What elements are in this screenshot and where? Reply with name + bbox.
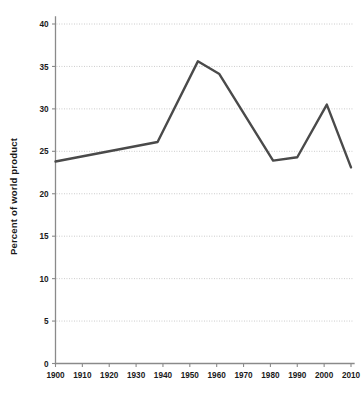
x-axis-ticks: 1900191019201930194019501960197019801990… <box>46 364 360 380</box>
y-tick-label-35: 35 <box>39 63 49 72</box>
x-tick-label-1920: 1920 <box>100 371 119 380</box>
y-tick-label-25: 25 <box>39 147 49 156</box>
x-tick-label-1990: 1990 <box>288 371 307 380</box>
x-tick-label-1980: 1980 <box>261 371 280 380</box>
y-tick-label-40: 40 <box>39 20 49 29</box>
x-tick-label-1970: 1970 <box>234 371 253 380</box>
y-tick-label-10: 10 <box>39 275 49 284</box>
x-tick-label-1960: 1960 <box>208 371 227 380</box>
y-tick-label-15: 15 <box>39 232 49 241</box>
x-tick-label-1910: 1910 <box>73 371 92 380</box>
y-axis-ticks: 0510152025303540 <box>39 20 55 369</box>
x-tick-label-1950: 1950 <box>181 371 200 380</box>
x-tick-label-2010: 2010 <box>342 371 361 380</box>
y-tick-label-30: 30 <box>39 105 49 114</box>
axis-lines <box>56 17 355 364</box>
x-tick-label-1900: 1900 <box>46 371 65 380</box>
line-chart-plot: 0510152025303540 19001910192019301940195… <box>0 0 361 393</box>
chart-figure: Percent of world product 051015202530354… <box>0 0 361 393</box>
y-tick-label-0: 0 <box>44 360 49 369</box>
y-tick-label-20: 20 <box>39 190 49 199</box>
x-tick-label-1930: 1930 <box>127 371 146 380</box>
x-tick-label-1940: 1940 <box>154 371 173 380</box>
y-tick-label-5: 5 <box>44 317 49 326</box>
x-tick-label-2000: 2000 <box>315 371 334 380</box>
gridlines <box>57 24 355 321</box>
